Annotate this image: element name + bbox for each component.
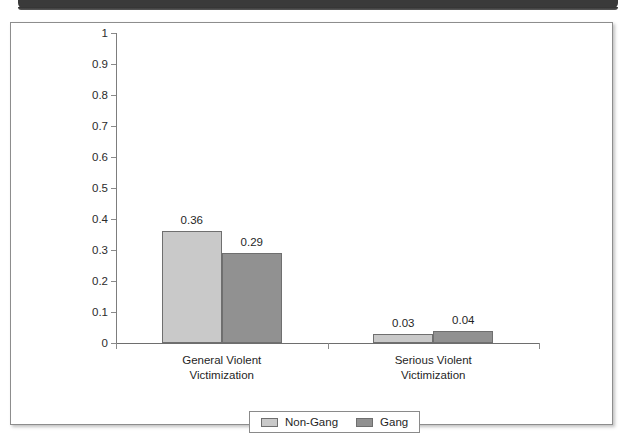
x-axis-category-label-line: General Violent	[182, 353, 261, 368]
bar-gang	[433, 331, 493, 343]
y-axis-line	[116, 33, 117, 343]
y-axis-label: 0.4	[92, 213, 108, 225]
x-axis-tick	[116, 343, 117, 349]
bar-value-label: 0.36	[181, 214, 203, 226]
legend-label: Gang	[380, 416, 408, 428]
y-axis-label: 0.3	[92, 244, 108, 256]
plot-area: 10.90.80.70.60.50.40.30.20.10 0.360.290.…	[116, 33, 539, 343]
y-axis-tick	[111, 33, 116, 34]
page-edge-band-shadow	[18, 7, 618, 10]
x-axis-category-label: General ViolentVictimization	[182, 353, 261, 383]
y-axis-label: 0.2	[92, 275, 108, 287]
y-axis-tick	[111, 219, 116, 220]
y-axis-tick	[111, 126, 116, 127]
y-axis-label: 0.7	[92, 120, 108, 132]
legend-swatch	[261, 418, 278, 427]
y-axis-tick	[111, 281, 116, 282]
bar-non-gang	[373, 334, 433, 343]
y-axis-tick	[111, 188, 116, 189]
bar-non-gang	[162, 231, 222, 343]
bar-value-label: 0.04	[452, 314, 474, 326]
x-axis-category-label-line: Serious Violent	[395, 353, 472, 368]
bar-gang	[222, 253, 282, 343]
legend-swatch	[356, 418, 373, 427]
y-axis-tick	[111, 312, 116, 313]
chart-legend: Non-GangGang	[249, 411, 420, 433]
y-axis-tick	[111, 250, 116, 251]
x-axis-category-label-line: Victimization	[182, 368, 261, 383]
bar-value-label: 0.03	[392, 317, 414, 329]
x-axis-category-label: Serious ViolentVictimization	[395, 353, 472, 383]
legend-label: Non-Gang	[285, 416, 338, 428]
legend-entry: Gang	[356, 416, 408, 428]
x-axis-tick	[539, 343, 540, 349]
chart-figure-frame: 10.90.80.70.60.50.40.30.20.10 0.360.290.…	[10, 22, 613, 425]
y-axis-label: 0.8	[92, 89, 108, 101]
y-axis-tick	[111, 64, 116, 65]
y-axis-label: 0.1	[92, 306, 108, 318]
y-axis-label: 1	[102, 27, 108, 39]
bar-value-label: 0.29	[241, 236, 263, 248]
y-axis-tick	[111, 157, 116, 158]
y-axis-label: 0.9	[92, 58, 108, 70]
x-axis-category-label-line: Victimization	[395, 368, 472, 383]
y-axis-label: 0.5	[92, 182, 108, 194]
legend-entry: Non-Gang	[261, 416, 338, 428]
y-axis-label: 0	[102, 337, 108, 349]
y-axis-tick	[111, 95, 116, 96]
y-axis-label: 0.6	[92, 151, 108, 163]
x-axis-tick	[328, 343, 329, 349]
